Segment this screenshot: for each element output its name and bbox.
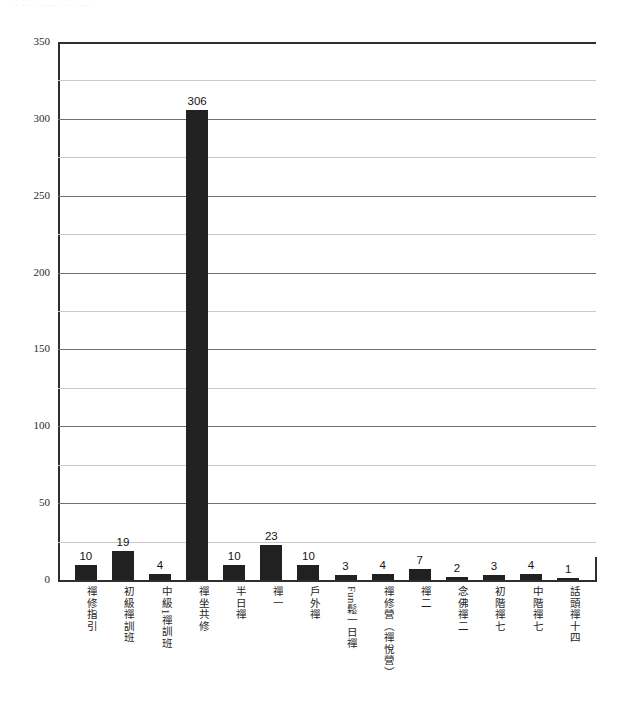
bar-value-label: 1: [538, 563, 598, 575]
gridline-250: [58, 196, 596, 197]
gridline-225: [58, 234, 596, 235]
bar-column[interactable]: 3: [335, 42, 357, 580]
y-tick-label-100: 100: [4, 420, 50, 431]
bar-value-label: 10: [204, 550, 264, 562]
bar-value-label: 23: [241, 530, 301, 542]
bar-column[interactable]: 19: [112, 42, 134, 580]
bar-column[interactable]: 23: [260, 42, 282, 580]
y-tick-label-250: 250: [4, 190, 50, 201]
y-tick-label-350: 350: [4, 36, 50, 47]
gridline-175: [58, 311, 596, 312]
y-tick-label-200: 200: [4, 267, 50, 278]
y-tick-label-300: 300: [4, 113, 50, 124]
x-category-label: Fun鬆一日禪: [335, 586, 357, 650]
x-category-label: 中階禪七: [520, 586, 542, 632]
gridline-200: [58, 273, 596, 274]
bar-column[interactable]: 4: [520, 42, 542, 580]
bar[interactable]: [149, 574, 171, 580]
y-tick-label-0: 0: [4, 574, 50, 585]
gridline-50: [58, 503, 596, 504]
bar[interactable]: [186, 110, 208, 580]
bar[interactable]: [483, 575, 505, 580]
bar-column[interactable]: 4: [372, 42, 394, 580]
gridline-125: [58, 388, 596, 389]
bar-column[interactable]: 2: [446, 42, 468, 580]
bar-value-label: 10: [56, 550, 116, 562]
plot-top-border: [58, 42, 596, 44]
x-category-label: 話頭禪十四: [557, 586, 579, 644]
bar-value-label: 19: [93, 536, 153, 548]
bar[interactable]: [372, 574, 394, 580]
gridline-100: [58, 426, 596, 427]
bar-column[interactable]: 3: [483, 42, 505, 580]
bar-column[interactable]: 1: [557, 42, 579, 580]
x-category-label: 初階禪七: [483, 586, 505, 632]
y-tick-label-50: 50: [4, 497, 50, 508]
gridline-75: [58, 465, 596, 466]
bar-column[interactable]: 306: [186, 42, 208, 580]
x-category-label: 中級1禪訓班: [149, 586, 171, 649]
x-category-label: 禪修營（禪悅營）: [372, 586, 394, 678]
x-category-label: 禪二: [409, 586, 431, 609]
x-axis-line: [58, 580, 597, 582]
x-category-label: 初級禪訓班: [112, 586, 134, 644]
bar-column[interactable]: 7: [409, 42, 431, 580]
y-tick-label-150: 150: [4, 343, 50, 354]
bar-column[interactable]: 4: [149, 42, 171, 580]
bar-column[interactable]: 10: [223, 42, 245, 580]
gridline-300: [58, 119, 596, 120]
x-category-label: 半日禪: [223, 586, 245, 621]
bar-value-label: 306: [167, 95, 227, 107]
gridline-275: [58, 157, 596, 158]
bar-column[interactable]: 10: [297, 42, 319, 580]
bar[interactable]: [223, 565, 245, 580]
x-category-label: 戶外禪: [297, 586, 319, 621]
x-category-label: 念佛禪二: [446, 586, 468, 632]
bar[interactable]: [335, 575, 357, 580]
bar-chart: 101943061023103472341 350300250200150100…: [0, 0, 631, 706]
gridline-150: [58, 349, 596, 350]
plot-area: 101943061023103472341: [58, 42, 596, 580]
x-category-label: 禪修指引: [75, 586, 97, 632]
gridline-325: [58, 80, 596, 81]
bar[interactable]: [75, 565, 97, 580]
bar-column[interactable]: 10: [75, 42, 97, 580]
x-category-label: 禪坐共修: [186, 586, 208, 632]
x-category-label: 禪一: [260, 586, 282, 609]
bar-value-label: 4: [130, 559, 190, 571]
bar[interactable]: [446, 577, 468, 580]
bar[interactable]: [557, 578, 579, 580]
